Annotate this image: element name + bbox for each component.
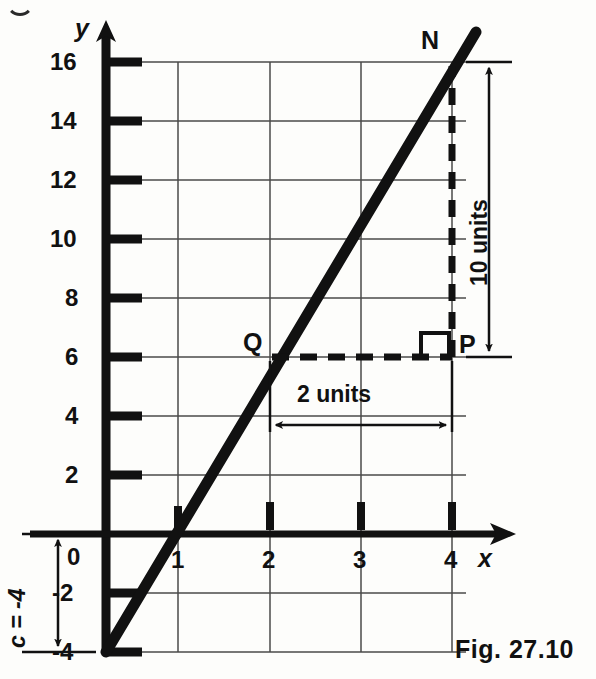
y-tick-16: 16 bbox=[50, 50, 77, 74]
rise-annotation: 10 units bbox=[468, 199, 491, 286]
y-tick-12: 12 bbox=[50, 168, 77, 192]
y-tick-neg4: -4 bbox=[52, 640, 73, 664]
point-label-p: P bbox=[459, 332, 476, 357]
y-tick-14: 14 bbox=[50, 109, 77, 133]
y-axis-ticks bbox=[108, 62, 142, 652]
x-axis-label: x bbox=[478, 546, 492, 571]
graph-figure bbox=[0, 0, 596, 679]
right-angle-marker bbox=[421, 333, 449, 357]
point-label-q: Q bbox=[243, 330, 262, 355]
x-tick-3: 3 bbox=[353, 548, 366, 572]
point-label-n: N bbox=[421, 28, 439, 53]
x-axis-ticks bbox=[178, 502, 452, 530]
y-axis-label: y bbox=[75, 16, 89, 41]
x-tick-4: 4 bbox=[444, 548, 457, 572]
x-tick-2: 2 bbox=[262, 548, 275, 572]
y-tick-6: 6 bbox=[65, 345, 78, 369]
y-tick-4: 4 bbox=[65, 404, 78, 428]
y-tick-2: 2 bbox=[65, 463, 78, 487]
figure-caption: Fig. 27.10 bbox=[455, 637, 574, 662]
x-tick-1: 1 bbox=[171, 548, 184, 572]
y-tick-8: 8 bbox=[65, 286, 78, 310]
y-tick-10: 10 bbox=[50, 227, 77, 251]
y-tick-neg2: -2 bbox=[52, 581, 73, 605]
intercept-annotation: c = -4 bbox=[6, 589, 29, 648]
y-tick-0: 0 bbox=[67, 545, 80, 569]
run-annotation: 2 units bbox=[297, 383, 371, 406]
